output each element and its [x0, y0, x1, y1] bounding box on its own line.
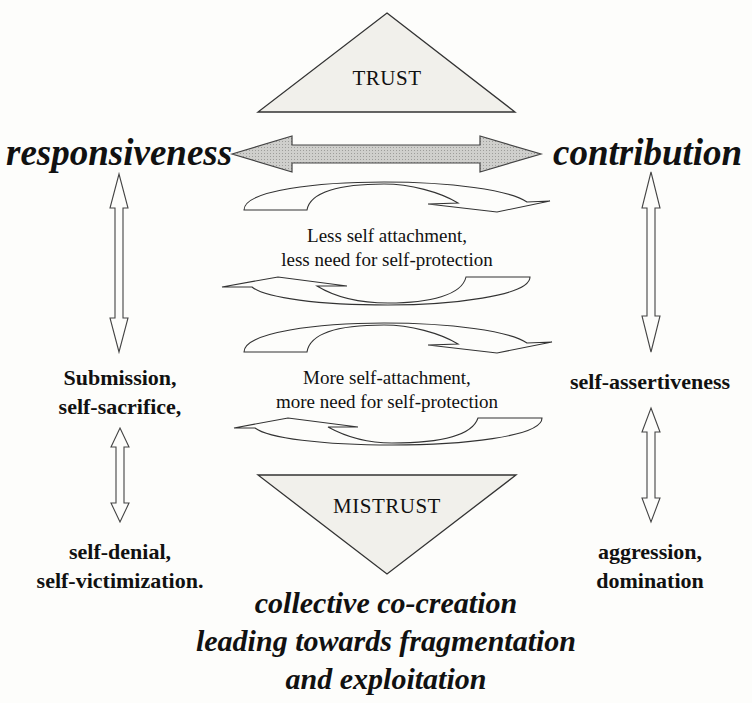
vertical-double-arrow-icon: [111, 428, 129, 522]
curved-arrow-right-icon: [244, 323, 552, 353]
horizontal-double-arrow: [232, 136, 541, 172]
responsiveness-label: responsiveness: [6, 133, 224, 173]
footer-line-1: collective co-creation: [176, 584, 596, 622]
trust-label: TRUST: [337, 66, 437, 91]
curved-arrow-right-icon: [244, 182, 550, 212]
trust-triangle: [258, 13, 515, 112]
vertical-double-arrow-icon: [642, 172, 660, 352]
curved-arrow-left-icon: [222, 277, 530, 305]
mistrust-label: MISTRUST: [317, 494, 457, 519]
contribution-label: contribution: [553, 133, 748, 173]
upper-cycle-line-1: Less self attachment,: [237, 224, 537, 248]
aggression-line-1: aggression,: [560, 537, 740, 566]
upper-cycle-line-2: less need for self-protection: [237, 248, 537, 272]
upper-cycle-text: Less self attachment, less need for self…: [237, 224, 537, 272]
lower-cycle-text: More self-attachment, more need for self…: [237, 366, 537, 414]
submission-line-1: Submission,: [20, 363, 220, 392]
vertical-double-arrow-icon: [110, 174, 128, 352]
footer-line-2: leading towards fragmentation: [176, 622, 596, 660]
self-denial-line-1: self-denial,: [10, 537, 230, 566]
footer-line-3: and exploitation: [176, 660, 596, 698]
self-assertiveness-label: self-assertiveness: [550, 367, 750, 396]
lower-cycle-line-2: more need for self-protection: [237, 390, 537, 414]
curved-arrow-left-icon: [234, 418, 542, 445]
lower-cycle-line-1: More self-attachment,: [237, 366, 537, 390]
footer-caption: collective co-creation leading towards f…: [176, 584, 596, 698]
submission-line-2: self-sacrifice,: [20, 392, 220, 421]
submission-label: Submission, self-sacrifice,: [20, 363, 220, 421]
mistrust-triangle: [258, 475, 516, 574]
vertical-double-arrow-icon: [642, 408, 660, 522]
